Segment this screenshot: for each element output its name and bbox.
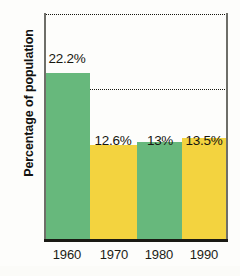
y-axis-title: Percentage of population — [22, 18, 36, 188]
bar-1960 — [45, 73, 90, 240]
bar-1970 — [90, 145, 137, 240]
page-bottom-margin — [0, 266, 240, 276]
bar-1990 — [182, 138, 227, 240]
data-label-1960: 22.2% — [37, 51, 97, 66]
plot-right-border — [226, 13, 228, 241]
bar-chart-figure: 30 20 10 0 Percentage of population 22.2… — [0, 0, 240, 276]
x-tick-label-1990: 1990 — [174, 247, 234, 262]
x-axis-line — [44, 239, 228, 242]
bars-layer — [45, 14, 227, 240]
bar-1980 — [137, 142, 182, 240]
data-label-1990: 13.5% — [174, 133, 234, 148]
y-axis-line — [44, 13, 46, 241]
